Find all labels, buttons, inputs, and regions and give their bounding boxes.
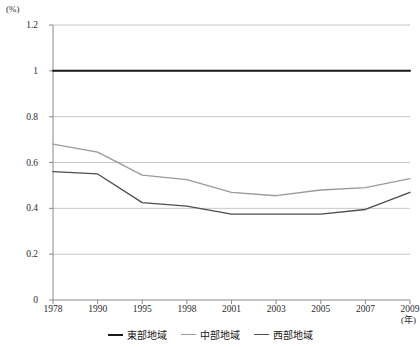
legend-item-label: 東部地域 (127, 327, 167, 342)
legend-item[interactable]: 西部地域 (254, 327, 313, 342)
legend-swatch-line-icon (181, 334, 196, 335)
legend-item-label: 中部地域 (200, 327, 240, 342)
chart-container: (%) (年) 00.20.40.60.811.2 19781990199519… (0, 0, 420, 347)
legend-item[interactable]: 中部地域 (181, 327, 240, 342)
legend-item-label: 西部地域 (273, 327, 313, 342)
legend-swatch-line-icon (254, 334, 269, 335)
line-plot-area (0, 0, 420, 347)
legend-item[interactable]: 東部地域 (108, 327, 167, 342)
series-line-2 (53, 144, 410, 196)
chart-legend: 東部地域中部地域西部地域 (0, 327, 420, 342)
legend-swatch-line-icon (108, 334, 123, 336)
